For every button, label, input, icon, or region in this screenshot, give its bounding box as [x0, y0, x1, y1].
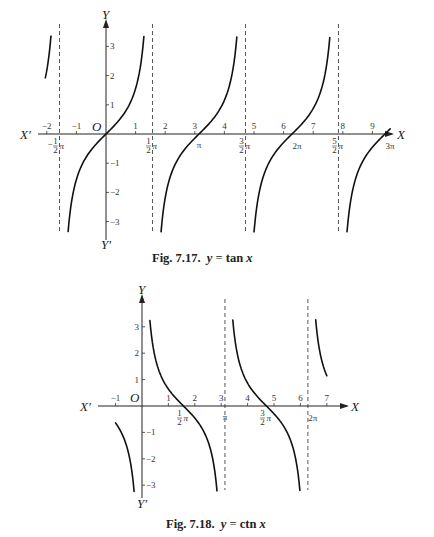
x-tick-label: 5	[272, 393, 277, 403]
x-tick-label: −1	[111, 393, 121, 403]
x-tick-label: 8	[341, 121, 346, 131]
x-axis-label: X	[350, 399, 360, 414]
pi-label: 2π	[308, 413, 318, 423]
curve-branch	[116, 423, 134, 491]
caption-var-x: x	[260, 517, 266, 531]
y-tick-label: 1	[110, 100, 115, 110]
pi-label: 32π	[260, 408, 272, 427]
svg-text:π: π	[183, 413, 188, 423]
figure-caption-7-17: Fig. 7.17. y = tan x	[152, 251, 252, 266]
caption-var-x: x	[246, 251, 252, 265]
svg-text:2: 2	[260, 417, 265, 427]
x-tick-label: 6	[281, 121, 286, 131]
svg-text:2: 2	[239, 145, 244, 155]
y-tick-label: 3	[110, 41, 115, 51]
x-tick-label: 5	[252, 121, 257, 131]
caption-prefix: Fig. 7.18.	[166, 517, 215, 531]
pi-label: 32π	[239, 136, 251, 155]
x-axis-neg-label: X′	[79, 399, 91, 414]
y-tick-label: 3	[135, 322, 140, 332]
x-tick-label: 1	[133, 121, 138, 131]
pi-label: 12π	[146, 136, 158, 155]
y-axis-neg-label: Y′	[137, 496, 147, 511]
y-tick-label: −3	[110, 217, 120, 227]
svg-text:π: π	[60, 141, 65, 151]
pi-label: 12π	[177, 408, 189, 427]
origin-label: O	[92, 119, 102, 134]
caption-prefix: Fig. 7.17.	[152, 251, 201, 265]
caption-fn: ctn	[240, 517, 257, 531]
svg-text:−: −	[48, 139, 53, 149]
figure-canvas: XX′YY′O−2−1123456789−3−2−1123−12π12ππ32π…	[0, 0, 434, 537]
x-tick-label: 4	[222, 121, 227, 131]
figure-caption-7-18: Fig. 7.18. y = ctn x	[166, 517, 266, 532]
y-tick-label: 1	[135, 375, 140, 385]
x-axis-label: X	[396, 127, 406, 142]
curve-branch	[347, 129, 390, 232]
x-tick-label: 7	[311, 121, 316, 131]
curve-branch	[254, 38, 330, 232]
y-tick-label: −3	[146, 480, 156, 490]
svg-text:2: 2	[53, 145, 58, 155]
caption-var-y: y	[221, 517, 227, 531]
y-tick-label: −1	[110, 158, 120, 168]
x-tick-label: 7	[325, 393, 330, 403]
pi-label: 52π	[332, 136, 344, 155]
x-axis-neg-label: X′	[19, 127, 31, 142]
pi-label: 3π	[385, 141, 395, 151]
x-tick-label: 4	[245, 393, 250, 403]
caption-fn: tan	[226, 251, 243, 265]
y-tick-label: 2	[110, 71, 115, 81]
x-tick-label: −2	[42, 121, 52, 131]
x-axis-arrow-icon	[340, 403, 349, 409]
caption-var-y: y	[207, 251, 213, 265]
y-axis-label: Y	[102, 7, 111, 22]
x-tick-label: 6	[298, 393, 303, 403]
y-tick-label: −1	[146, 427, 156, 437]
chart-ctn: XX′YY′O−11234567−3−2−112312ππ32π2π	[79, 282, 360, 511]
svg-text:2: 2	[177, 417, 182, 427]
y-tick-label: −2	[146, 454, 156, 464]
pi-label: 2π	[292, 141, 302, 151]
svg-text:2: 2	[146, 145, 151, 155]
y-axis-label: Y	[138, 282, 147, 297]
origin-label: O	[130, 390, 140, 405]
y-axis-neg-label: Y′	[101, 237, 111, 252]
svg-text:π: π	[266, 413, 271, 423]
x-tick-label: 3	[193, 121, 198, 131]
x-tick-label: 1	[166, 393, 171, 403]
curve-branch	[316, 320, 327, 376]
svg-text:2: 2	[332, 145, 337, 155]
x-tick-label: −1	[72, 121, 82, 131]
x-tick-label: 9	[370, 121, 375, 131]
curve-branch	[45, 36, 51, 78]
caption-eq: =	[216, 251, 223, 265]
x-tick-label: 2	[163, 121, 168, 131]
pi-label: π	[223, 412, 228, 422]
curve-branch	[233, 320, 300, 490]
y-tick-label: 2	[135, 348, 140, 358]
y-tick-label: −2	[110, 187, 120, 197]
x-tick-label: 3	[219, 393, 224, 403]
svg-text:π: π	[338, 141, 343, 151]
pi-label: −12π	[48, 136, 65, 155]
svg-text:π: π	[245, 141, 250, 151]
svg-text:π: π	[152, 141, 157, 151]
x-tick-label: 2	[193, 393, 198, 403]
pi-label: π	[197, 140, 202, 150]
chart-tan: XX′YY′O−2−1123456789−3−2−1123−12π12ππ32π…	[19, 7, 406, 252]
caption-eq: =	[230, 517, 237, 531]
